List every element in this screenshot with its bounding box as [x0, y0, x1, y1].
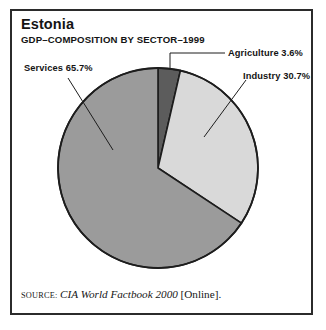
source-work-title: CIA World Factbook 2000 [60, 288, 178, 300]
chart-subtitle: GDP–COMPOSITION BY SECTOR–1999 [21, 35, 205, 45]
source-medium: [Online]. [180, 288, 221, 300]
figure-panel: Estonia GDP–COMPOSITION BY SECTOR–1999 A… [0, 0, 326, 330]
callout-label-services: Services 65.7% [24, 64, 93, 73]
source-kicker: SOURCE: [21, 291, 57, 300]
page-title: Estonia [21, 17, 74, 32]
callout-label-agriculture: Agriculture 3.6% [228, 49, 303, 58]
callout-label-industry: Industry 30.7% [243, 72, 310, 81]
source-note: SOURCE: CIA World Factbook 2000 [Online]… [21, 288, 221, 301]
